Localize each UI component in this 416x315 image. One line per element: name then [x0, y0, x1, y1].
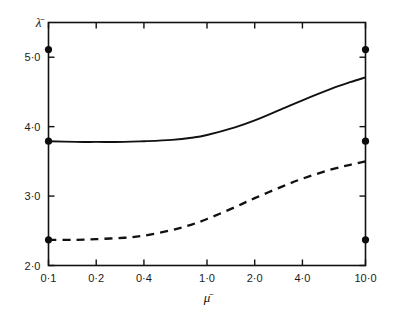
x-tick-label-6: 10·0 — [354, 272, 376, 284]
left-middle-point — [45, 138, 52, 145]
left-lower-point — [45, 236, 52, 243]
x-tick-label-1: 0·2 — [88, 272, 104, 284]
x-tick-label-3: 1·0 — [199, 272, 215, 284]
x-tick-label-0: 0·1 — [41, 272, 57, 284]
y-tick-label-1: 4·0 — [25, 121, 41, 133]
y-tick-label-0: 5·0 — [25, 51, 41, 63]
right-lower-point — [362, 236, 369, 243]
y-tick-label-2: 3·0 — [25, 190, 41, 202]
left-upper-point — [45, 46, 52, 53]
x-tick-label-4: 2·0 — [247, 272, 263, 284]
chart-plot: 0·10·20·41·02·04·010·0 5·04·03·02·0 λ̄μ̄ — [0, 0, 416, 315]
right-upper-point — [362, 46, 369, 53]
x-tick-label-5: 4·0 — [294, 272, 310, 284]
right-middle-point — [362, 138, 369, 145]
x-tick-label-2: 0·4 — [136, 272, 152, 284]
chart-background — [0, 0, 416, 315]
chart-figure: 0·10·20·41·02·04·010·0 5·04·03·02·0 λ̄μ̄ — [0, 0, 416, 315]
y-tick-label-3: 2·0 — [25, 260, 41, 272]
